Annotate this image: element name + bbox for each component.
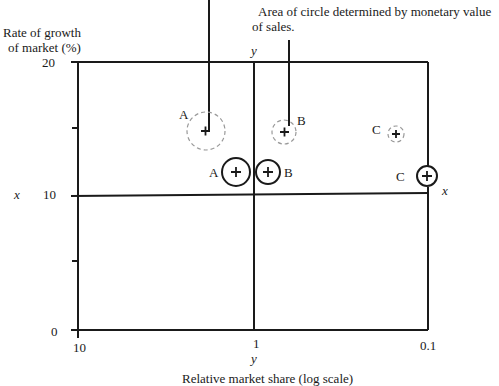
y-axis-label-line-1: Rate of growth bbox=[3, 25, 81, 40]
divider-label-x-left: x bbox=[14, 187, 20, 202]
y-tick-label-20: 20 bbox=[42, 55, 55, 70]
x-axis-label: Relative market share (log scale) bbox=[182, 371, 353, 386]
divider-label-y-top: y bbox=[251, 43, 257, 58]
x-tick-label-1: 1 bbox=[253, 336, 260, 351]
point-label-c-dashed: C bbox=[372, 122, 381, 137]
plus-icon bbox=[392, 130, 400, 138]
y-tick-label-10: 10 bbox=[43, 187, 56, 202]
divider-label-y-bottom: y bbox=[251, 351, 257, 366]
y-axis-label-line-2: of market (%) bbox=[8, 40, 81, 55]
annotation-line-2: of sales. bbox=[252, 19, 295, 34]
y-tick-label-0: 0 bbox=[51, 324, 58, 339]
point-label-c-solid: C bbox=[396, 169, 405, 184]
plus-icon bbox=[280, 128, 289, 137]
annotation-line-1: Area of circle determined by monetary va… bbox=[258, 4, 491, 19]
horizontal-divider bbox=[71, 193, 428, 196]
point-label-b-dashed: B bbox=[297, 113, 306, 128]
point-label-b-solid: B bbox=[284, 165, 293, 180]
point-label-a-solid: A bbox=[209, 165, 218, 180]
x-tick-label-0-1: 0.1 bbox=[420, 338, 436, 353]
point-label-a-dashed: A bbox=[179, 107, 188, 122]
divider-label-x-right: x bbox=[442, 183, 448, 198]
x-tick-label-10: 10 bbox=[73, 340, 86, 355]
